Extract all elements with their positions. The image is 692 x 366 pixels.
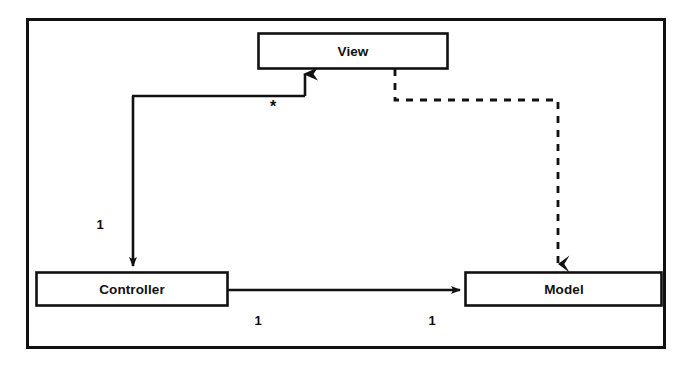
node-controller[interactable]: Controller <box>37 273 228 306</box>
edge-view-to-model-dashed-line[interactable] <box>395 69 558 264</box>
node-model[interactable]: Model <box>466 273 662 306</box>
multiplicity-label-model-target-one: 1 <box>428 313 435 328</box>
edge-view-to-controller[interactable] <box>132 74 305 266</box>
multiplicity-label-controller-source-one: 1 <box>254 313 261 328</box>
multiplicity-label-controller-one: 1 <box>96 217 103 232</box>
node-view-label: View <box>338 44 369 59</box>
node-model-label: Model <box>544 282 584 297</box>
edge-view-to-model-dependency[interactable] <box>395 69 558 264</box>
multiplicity-label-view-star: * <box>270 98 277 115</box>
node-controller-label: Controller <box>99 282 165 297</box>
mvc-diagram-canvas: View Controller Model * <box>0 0 692 366</box>
node-view[interactable]: View <box>259 34 448 69</box>
mvc-diagram-svg: View Controller Model * <box>0 0 692 366</box>
